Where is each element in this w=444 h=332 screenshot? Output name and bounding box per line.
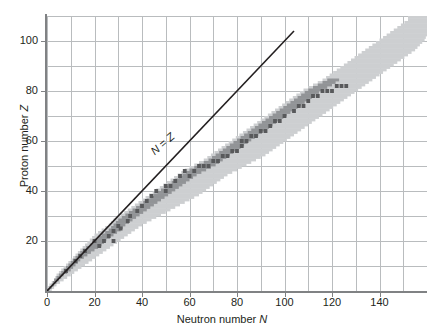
y-axis-tick-label: 20 (8, 234, 38, 246)
x-axis-tick-label: 120 (312, 296, 352, 308)
x-axis-tick-label: 60 (170, 296, 210, 308)
x-axis-tick-label: 40 (122, 296, 162, 308)
y-axis-tick (41, 41, 45, 42)
x-axis-spine (45, 291, 427, 293)
x-axis-label-symbol: N (259, 313, 267, 325)
x-axis-tick-label: 20 (75, 296, 115, 308)
x-axis-tick-label: 100 (265, 296, 305, 308)
y-axis-tick (41, 141, 45, 142)
y-axis-tick (41, 241, 45, 242)
y-axis-tick-label: 100 (8, 34, 38, 46)
y-axis-label: Proton number Z (18, 66, 30, 226)
y-axis-label-symbol: Z (18, 105, 30, 112)
x-axis-tick-label: 0 (27, 296, 67, 308)
x-axis-label-text: Neutron number (177, 313, 260, 325)
y-axis-label-text: Proton number (18, 111, 30, 187)
y-axis-tick (41, 91, 45, 92)
y-axis-tick (41, 191, 45, 192)
y-axis-spine (45, 14, 47, 293)
nuclide-chart-figure: 02040608010012014020406080100 N = Z Neut… (0, 0, 444, 332)
x-axis-tick-label: 140 (360, 296, 400, 308)
x-axis-tick-label: 80 (217, 296, 257, 308)
plot-area (47, 16, 427, 291)
x-axis-label: Neutron number N (0, 313, 444, 325)
n-equals-z-reference-line (47, 16, 427, 291)
